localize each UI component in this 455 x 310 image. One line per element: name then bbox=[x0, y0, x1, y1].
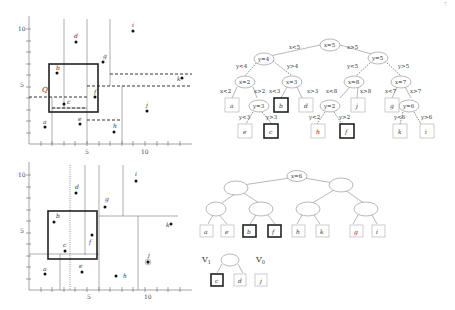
tree-leaf: d bbox=[234, 274, 246, 286]
svg-text:x<3: x<3 bbox=[269, 88, 281, 94]
tree-node bbox=[224, 181, 248, 195]
tree-node: x=3 bbox=[282, 76, 302, 88]
y-ticks bbox=[26, 175, 31, 279]
svg-text:i: i bbox=[135, 170, 137, 177]
v0-label: V0 bbox=[255, 255, 265, 265]
tree-leaf-highlighted: b bbox=[243, 225, 256, 237]
svg-text:i: i bbox=[425, 128, 427, 135]
svg-text:b: b bbox=[247, 228, 251, 235]
tree-node: y=6 bbox=[399, 100, 419, 112]
svg-text:y<5: y<5 bbox=[346, 63, 359, 70]
x-ticks bbox=[41, 287, 180, 292]
svg-text:x=5: x=5 bbox=[324, 42, 336, 48]
svg-text:x=3: x=3 bbox=[286, 79, 298, 85]
tree-node-root: x=6 bbox=[287, 171, 307, 182]
tree-node bbox=[221, 254, 239, 266]
svg-text:e: e bbox=[79, 262, 83, 269]
svg-text:j: j bbox=[146, 251, 150, 259]
tree-leaf-highlighted: f bbox=[268, 225, 281, 237]
tree-leaf: k bbox=[393, 124, 407, 138]
svg-text:b: b bbox=[279, 102, 283, 109]
tree-leaf: d bbox=[299, 98, 313, 112]
tree-leaf: g bbox=[385, 98, 399, 112]
tree-leaf: a bbox=[200, 225, 213, 237]
x-tick-10: 10 bbox=[144, 293, 152, 300]
tree-leaf-highlighted: b bbox=[274, 98, 288, 112]
svg-text:y>6: y>6 bbox=[420, 114, 433, 121]
svg-text:x<8: x<8 bbox=[326, 88, 338, 94]
svg-text:y<3: y<3 bbox=[238, 114, 251, 121]
svg-text:y>4: y>4 bbox=[286, 63, 299, 70]
svg-text:x>7: x>7 bbox=[410, 88, 422, 94]
svg-text:x=7: x=7 bbox=[395, 79, 407, 85]
svg-text:y>5: y>5 bbox=[397, 63, 410, 70]
top-kd-tree: x<5 x>5 y<4 y>4 y<5 y>5 x<2 x>2 x<3 x>3 … bbox=[220, 39, 434, 138]
x-tick-5: 5 bbox=[87, 293, 91, 300]
y-tick-10: 10 bbox=[18, 25, 26, 32]
svg-text:y=4: y=4 bbox=[257, 56, 270, 63]
tree-leaf: g bbox=[350, 225, 363, 237]
svg-text:d: d bbox=[75, 183, 79, 190]
svg-text:h: h bbox=[296, 228, 300, 235]
svg-text:x<7: x<7 bbox=[385, 88, 397, 94]
svg-text:b: b bbox=[56, 64, 60, 71]
query-rectangle bbox=[49, 64, 98, 112]
svg-text:c: c bbox=[67, 98, 71, 105]
svg-text:h: h bbox=[316, 128, 320, 135]
tree-leaf: i bbox=[372, 225, 385, 237]
tree-node bbox=[206, 202, 226, 216]
svg-text:d: d bbox=[238, 277, 242, 284]
svg-text:f: f bbox=[88, 238, 93, 246]
tree-node: y=2 bbox=[320, 100, 340, 112]
dashed-lines bbox=[29, 74, 192, 120]
tree-leaf-highlighted: c bbox=[211, 274, 223, 286]
y-tick-5: 5 bbox=[20, 81, 24, 88]
tree-leaf: a bbox=[225, 98, 239, 112]
tree-node: x=7 bbox=[391, 76, 411, 88]
svg-text:a: a bbox=[230, 102, 234, 109]
partition-lines bbox=[29, 165, 178, 290]
svg-text:x>5: x>5 bbox=[347, 44, 359, 50]
svg-text:g: g bbox=[390, 102, 394, 110]
svg-text:y=5: y=5 bbox=[371, 55, 384, 62]
svg-text:a: a bbox=[43, 118, 47, 125]
tree-leaf: e bbox=[238, 124, 252, 138]
svg-text:y<2: y<2 bbox=[308, 114, 320, 121]
svg-text:y>2: y>2 bbox=[338, 114, 350, 121]
svg-text:g: g bbox=[103, 52, 107, 60]
tree-leaf: k bbox=[316, 225, 329, 237]
svg-text:k: k bbox=[166, 221, 170, 228]
svg-text:b: b bbox=[56, 212, 60, 219]
x-tick-10: 10 bbox=[141, 148, 149, 155]
svg-text:y=3: y=3 bbox=[252, 103, 265, 110]
svg-text:k: k bbox=[398, 128, 402, 135]
bottom-kd-tree: V3 x=6 a e b f h k g i V1 c bbox=[200, 171, 385, 287]
y-tick-10: 10 bbox=[18, 171, 26, 178]
svg-text:x=2: x=2 bbox=[239, 79, 250, 85]
svg-text:y=2: y=2 bbox=[323, 103, 335, 110]
y-tick-5: 5 bbox=[20, 227, 24, 234]
tree-node bbox=[329, 178, 353, 192]
v1-label: V1 bbox=[201, 255, 211, 265]
svg-text:y<4: y<4 bbox=[235, 63, 248, 70]
svg-text:e: e bbox=[78, 115, 82, 122]
svg-text:e: e bbox=[243, 128, 247, 135]
tree-leaf: j bbox=[255, 274, 267, 286]
svg-text:i: i bbox=[132, 21, 134, 28]
svg-text:e: e bbox=[225, 228, 229, 235]
svg-text:d: d bbox=[304, 102, 308, 109]
tree-node-root: x=5 bbox=[320, 39, 340, 51]
tree-leaf-highlighted: f bbox=[340, 124, 354, 138]
svg-text:a: a bbox=[204, 228, 208, 235]
query-label: Q bbox=[42, 86, 48, 94]
svg-text:x<5: x<5 bbox=[289, 44, 301, 50]
y-ticks bbox=[26, 29, 31, 133]
partition-lines bbox=[52, 19, 122, 144]
top-kd-plot: 5 10 10 5 Q bbox=[18, 16, 192, 155]
bottom-kd-plot: 5 10 10 5 a b c d e f g bbox=[18, 162, 192, 300]
tree-leaf: j bbox=[351, 98, 365, 112]
svg-text:k: k bbox=[320, 228, 324, 235]
svg-text:k: k bbox=[177, 75, 181, 82]
x-tick-5: 5 bbox=[85, 148, 89, 155]
svg-text:y<6: y<6 bbox=[393, 114, 406, 121]
